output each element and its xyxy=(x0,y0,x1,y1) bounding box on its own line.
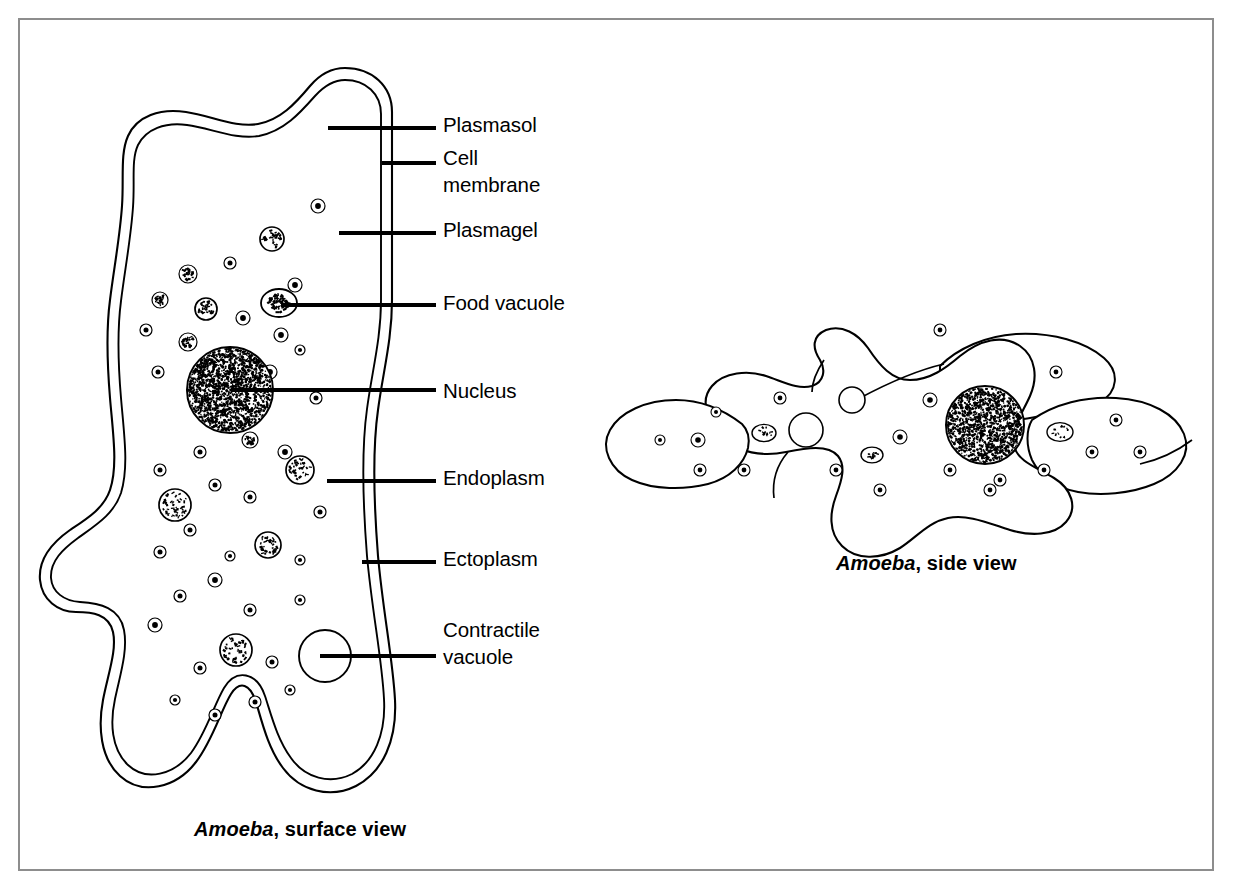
label-contractile-vacuole: Contractile xyxy=(443,617,540,643)
side-pseudopod-lower-left xyxy=(606,400,749,488)
vacuole xyxy=(1047,423,1073,442)
side-stipple-region xyxy=(0,0,1,1)
side-stipple-region xyxy=(0,0,1,1)
label-endoplasm: Endoplasm xyxy=(443,465,545,491)
vacuole xyxy=(839,387,865,413)
vacuole xyxy=(789,413,823,447)
amoeba-surface-view xyxy=(0,0,395,792)
caption-surface-view: Amoeba, surface view xyxy=(194,818,406,841)
label-plasmasol: Plasmasol xyxy=(443,112,537,138)
label-plasmagel: Plasmagel xyxy=(443,217,538,243)
label-cell-membrane-line2: membrane xyxy=(443,172,540,198)
vacuole xyxy=(286,456,314,484)
vacuole xyxy=(255,532,281,558)
cytoplasm-stipple xyxy=(0,0,1,1)
lobe-crease xyxy=(774,452,788,498)
vacuole xyxy=(861,447,883,463)
species-name: Amoeba xyxy=(194,818,274,840)
caption-rest: , side view xyxy=(916,552,1017,574)
label-food-vacuole: Food vacuole xyxy=(443,290,565,316)
label-ectoplasm: Ectoplasm xyxy=(443,546,538,572)
side-stipple-region xyxy=(0,0,1,1)
label-cell-membrane: Cell xyxy=(443,145,478,171)
caption-rest: , surface view xyxy=(274,818,407,840)
side-cytoplasm-stipple xyxy=(0,0,1,1)
amoeba-line-art xyxy=(0,0,1233,892)
species-name: Amoeba xyxy=(836,552,916,574)
caption-side-view: Amoeba, side view xyxy=(836,552,1017,575)
side-stipple-region xyxy=(0,0,1,1)
vacuole xyxy=(242,432,258,448)
vacuole xyxy=(159,489,191,521)
figure-root: PlasmasolCellmembranePlasmagelFood vacuo… xyxy=(0,0,1233,892)
label-contractile-vacuole-line2: vacuole xyxy=(443,644,513,670)
label-nucleus: Nucleus xyxy=(443,378,516,404)
